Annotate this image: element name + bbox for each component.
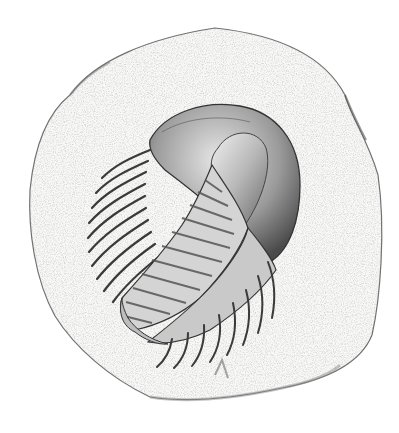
illustration [0, 0, 399, 433]
trilobite-fossil-drawing [0, 0, 399, 433]
